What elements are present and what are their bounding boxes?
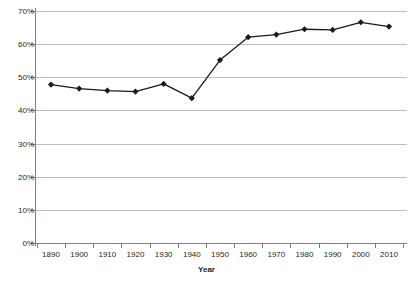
data-point-marker — [330, 27, 336, 33]
data-point-marker — [161, 81, 167, 87]
line-chart: 0%10%20%30%40%50%60%70% 1890190019101920… — [0, 0, 413, 281]
data-point-marker — [132, 88, 138, 94]
data-point-marker — [358, 19, 364, 25]
data-point-marker — [76, 85, 82, 91]
data-point-marker — [48, 81, 54, 87]
x-axis-title: Year — [0, 265, 413, 274]
data-point-marker — [104, 87, 110, 93]
data-point-marker — [386, 23, 392, 29]
data-point-marker — [273, 31, 279, 37]
series-markers — [48, 19, 392, 101]
data-point-marker — [301, 26, 307, 32]
data-series — [0, 0, 413, 281]
